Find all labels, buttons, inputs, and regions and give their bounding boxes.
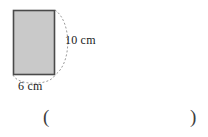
figure-canvas: 10 cm 6 cm ( ) xyxy=(0,0,208,137)
height-dimension-label: 10 cm xyxy=(65,33,96,48)
answer-open-paren: ( xyxy=(43,107,49,126)
answer-close-paren: ) xyxy=(190,107,196,126)
geometry-figure xyxy=(0,0,208,137)
width-dimension-label: 6 cm xyxy=(18,79,42,94)
shaded-rectangle xyxy=(14,11,55,75)
